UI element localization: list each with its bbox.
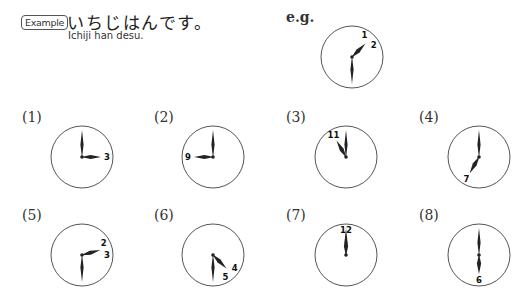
example-badge: Example xyxy=(21,15,68,30)
clock-numeral: 7 xyxy=(464,174,470,184)
clock-center-pin xyxy=(344,253,348,257)
clock-numeral: 6 xyxy=(476,275,482,285)
clock-numeral: 3 xyxy=(104,250,110,260)
clock-center-pin xyxy=(80,253,84,257)
clock-numeral: 9 xyxy=(185,152,191,162)
question-label-q5: (5) xyxy=(22,207,42,223)
clock-center-pin xyxy=(211,155,215,159)
clock-eg: 12 xyxy=(319,24,385,90)
clock-numeral: 11 xyxy=(328,130,340,140)
clock-q8: 6 xyxy=(446,222,512,288)
question-label-q1: (1) xyxy=(22,109,42,125)
clock-center-pin xyxy=(477,253,481,257)
question-label-q6: (6) xyxy=(154,207,174,223)
clock-q3: 11 xyxy=(313,124,379,190)
clock-numeral: 5 xyxy=(223,272,229,282)
clock-q2: 9 xyxy=(180,124,246,190)
clock-q5: 23 xyxy=(49,222,115,288)
clock-q7: 12 xyxy=(313,222,379,288)
clock-numeral: 2 xyxy=(101,238,107,248)
clock-numeral: 1 xyxy=(362,30,368,40)
clock-numeral: 2 xyxy=(371,40,377,50)
eg-label: e.g. xyxy=(286,9,314,25)
clock-center-pin xyxy=(344,155,348,159)
question-label-q4: (4) xyxy=(419,109,439,125)
clock-center-pin xyxy=(80,155,84,159)
question-label-q8: (8) xyxy=(419,207,439,223)
clock-center-pin xyxy=(477,155,481,159)
example-romaji: Ichiji han desu. xyxy=(68,30,144,41)
clock-numeral: 4 xyxy=(232,263,238,273)
clock-center-pin xyxy=(350,55,354,59)
question-label-q3: (3) xyxy=(286,109,306,125)
clock-q1: 3 xyxy=(49,124,115,190)
question-label-q7: (7) xyxy=(286,207,306,223)
clock-center-pin xyxy=(211,253,215,257)
question-label-q2: (2) xyxy=(154,109,174,125)
clock-q6: 45 xyxy=(180,222,246,288)
clock-q4: 7 xyxy=(446,124,512,190)
clock-numeral: 3 xyxy=(104,152,110,162)
